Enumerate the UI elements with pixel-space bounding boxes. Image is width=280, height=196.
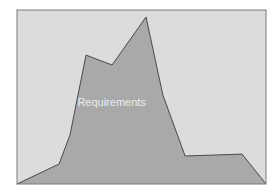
requirements-area-chart: Requirements [0,0,280,196]
series-label-requirements: Requirements [77,96,146,108]
